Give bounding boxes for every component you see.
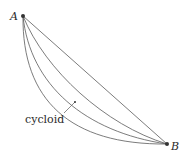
point-a-dot (21, 14, 25, 18)
leader-arrow-dot (74, 101, 76, 103)
point-b-dot (165, 142, 169, 146)
cycloid-label: cycloid (25, 113, 64, 126)
point-b-label: B (170, 140, 179, 153)
point-a-label: A (9, 10, 18, 23)
brachistochrone-diagram: A B cycloid (0, 0, 190, 160)
